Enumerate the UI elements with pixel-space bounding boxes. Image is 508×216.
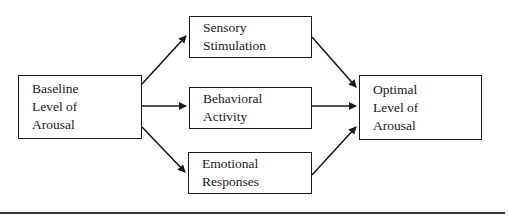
node-sensory-stimulation: Sensory Stimulation [189,16,312,58]
node-label-line: Emotional [202,155,311,173]
arrow-baseline-to-sensory [142,36,186,84]
node-label-line: Arousal [373,117,481,135]
node-behavioral-activity: Behavioral Activity [189,87,312,129]
node-label-line: Level of [32,98,141,116]
arrow-sensory-to-optimal [312,37,356,87]
node-emotional-responses: Emotional Responses [188,152,312,194]
node-label-line: Responses [202,173,311,191]
bottom-divider-rule [0,212,505,214]
node-label-line: Arousal [32,116,141,134]
node-label-line: Activity [203,108,311,126]
arrow-emotional-to-optimal [312,127,356,175]
node-optimal-level-of-arousal: Optimal Level of Arousal [359,75,482,140]
diagram-canvas: Baseline Level of Arousal Sensory Stimul… [0,0,508,216]
node-label-line: Behavioral [203,90,311,108]
node-label-line: Stimulation [203,37,311,55]
node-label-line: Level of [373,99,481,117]
arrow-baseline-to-emotional [142,127,185,172]
node-label-line: Sensory [203,19,311,37]
node-label-line: Baseline [32,80,141,98]
node-label-line: Optimal [373,81,481,99]
node-baseline-level-of-arousal: Baseline Level of Arousal [18,75,142,139]
